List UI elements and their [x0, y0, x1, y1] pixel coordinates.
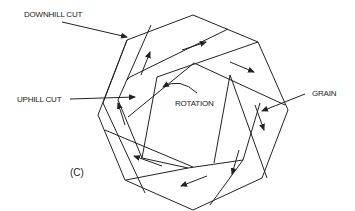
downhill-cut-label: DOWNHILL CUT — [24, 10, 83, 19]
uphill-cut-leader — [70, 97, 135, 99]
panel-label: (C) — [70, 167, 84, 178]
grain-leader — [262, 94, 305, 111]
octagon-diagram: DOWNHILL CUT UPHILL CUT ROTATION GRAIN (… — [0, 0, 355, 211]
rotation-label: ROTATION — [175, 99, 214, 108]
segment-joints — [103, 25, 285, 205]
grain-label: GRAIN — [312, 89, 337, 98]
outer-octagon — [98, 15, 288, 210]
downhill-cut-leader — [62, 22, 127, 37]
rotation-arc-icon — [163, 83, 197, 93]
uphill-cut-label: UPHILL CUT — [17, 95, 62, 104]
grain-arrows — [118, 42, 264, 186]
